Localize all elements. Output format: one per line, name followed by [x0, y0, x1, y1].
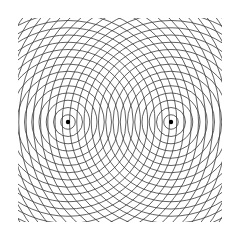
wave-interference-canvas: [0, 0, 236, 241]
wave-interference-figure: Two-source circular wavefront interferen…: [0, 0, 236, 241]
